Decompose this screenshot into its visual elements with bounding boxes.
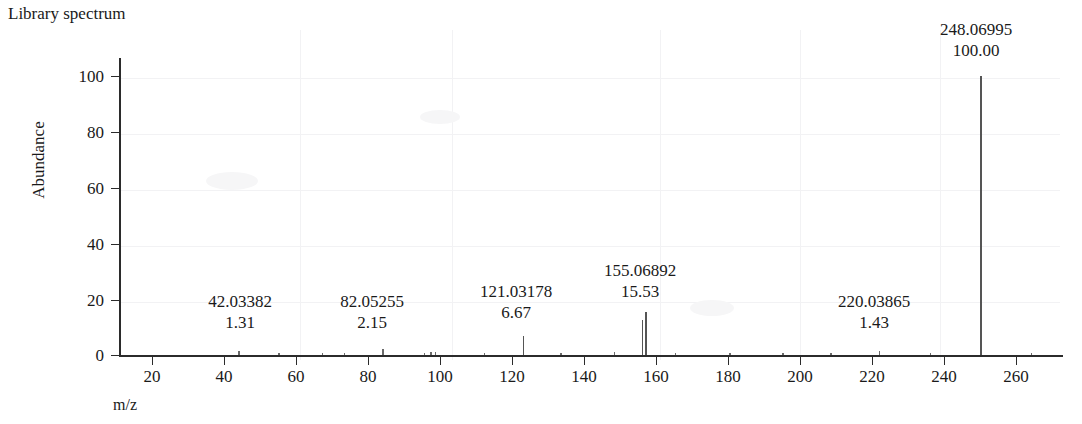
spectrum-peak: [782, 353, 783, 355]
x-axis-tick: [800, 356, 801, 365]
spectrum-peak: [484, 353, 485, 355]
x-axis-tick-label: 20: [122, 368, 182, 386]
x-axis-tick-label: 100: [410, 368, 470, 386]
spectrum-peak: [729, 353, 730, 355]
x-axis-tick-label: 160: [626, 368, 686, 386]
x-axis-tick: [152, 356, 153, 365]
x-axis-tick-label: 180: [698, 368, 758, 386]
spectrum-peak: [645, 312, 647, 355]
x-axis-tick: [512, 356, 513, 365]
x-axis-tick: [584, 356, 585, 365]
spectrum-peak: [560, 353, 561, 355]
x-axis-tick: [296, 356, 297, 365]
x-axis-tick-label: 80: [338, 368, 398, 386]
x-axis-tick: [224, 356, 225, 365]
x-axis-tick: [944, 356, 945, 365]
spectrum-peak: [642, 320, 644, 355]
peak-annotation-abundance: 15.53: [565, 281, 715, 302]
spectrum-peak: [278, 353, 279, 355]
x-axis-title: m/z: [113, 396, 137, 414]
x-axis-tick: [440, 356, 441, 365]
x-axis-tick-label: 220: [842, 368, 902, 386]
spectrum-peak: [238, 351, 239, 355]
spectrum-peak: [675, 353, 676, 355]
spectrum-peak: [930, 353, 931, 355]
spectrum-peak: [344, 353, 345, 355]
peak-annotation-abundance: 6.67: [441, 302, 591, 323]
spectrum-peak: [830, 353, 831, 355]
spectrum-peak: [614, 352, 615, 355]
peak-annotation: 155.06892 15.53: [565, 260, 715, 302]
x-axis-tick: [368, 356, 369, 365]
spectrum-peak: [430, 352, 431, 355]
peak-annotation-mz: 82.05255: [297, 291, 447, 312]
peak-annotation-mz: 42.03382: [165, 291, 315, 312]
x-axis-tick-label: 120: [482, 368, 542, 386]
spectrum-peak: [523, 336, 525, 355]
spectrum-peak: [435, 352, 436, 355]
x-axis-tick: [656, 356, 657, 365]
peak-annotation: 248.06995 100.00: [901, 19, 1051, 61]
x-axis-tick: [728, 356, 729, 365]
peak-annotation-mz: 220.03865: [799, 291, 949, 312]
x-axis-tick-label: 60: [266, 368, 326, 386]
peak-annotation-abundance: 1.31: [165, 312, 315, 333]
peak-annotation-abundance: 2.15: [297, 312, 447, 333]
x-axis-tick: [1016, 356, 1017, 365]
spectrum-peak: [980, 76, 982, 355]
x-axis-tick-label: 240: [914, 368, 974, 386]
x-axis-tick-label: 260: [986, 368, 1046, 386]
peak-annotation: 220.03865 1.43: [799, 291, 949, 333]
peak-annotation-mz: 248.06995: [901, 19, 1051, 40]
peak-annotation-abundance: 1.43: [799, 312, 949, 333]
spectrum-peak: [322, 353, 323, 355]
spectrum-peak: [424, 353, 425, 356]
x-axis-tick: [872, 356, 873, 365]
spectrum-peak: [1031, 353, 1032, 355]
peak-annotation-abundance: 100.00: [901, 40, 1051, 61]
spectrum-canvas: Library spectrum Abundance m/z 100 80 60…: [0, 0, 1082, 424]
spectrum-peak: [879, 351, 880, 355]
x-axis-tick-label: 140: [554, 368, 614, 386]
spectrum-peak: [382, 349, 383, 355]
x-axis-tick-label: 40: [194, 368, 254, 386]
peak-annotation: 82.05255 2.15: [297, 291, 447, 333]
peak-annotation: 42.03382 1.31: [165, 291, 315, 333]
peak-annotation-mz: 155.06892: [565, 260, 715, 281]
x-axis-tick-label: 200: [770, 368, 830, 386]
